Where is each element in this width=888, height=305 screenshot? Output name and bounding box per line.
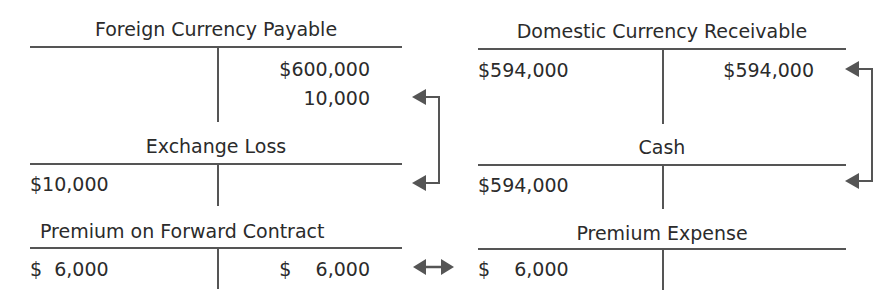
double-arrow-icon bbox=[413, 259, 454, 275]
connector-arrows bbox=[0, 0, 888, 305]
bracket-arrow-icon bbox=[412, 89, 439, 191]
bracket-arrow-icon bbox=[845, 61, 872, 189]
